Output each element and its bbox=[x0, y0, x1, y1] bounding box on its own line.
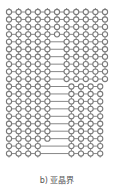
atom-icon bbox=[26, 24, 31, 29]
atom-icon bbox=[54, 17, 59, 22]
atom-icon bbox=[93, 69, 98, 74]
atom-icon bbox=[78, 114, 83, 119]
atom-icon bbox=[78, 84, 83, 89]
atom-icon bbox=[6, 106, 11, 111]
atom-icon bbox=[98, 91, 103, 96]
atom-icon bbox=[16, 114, 21, 119]
atom-icon bbox=[69, 91, 74, 96]
atom-icon bbox=[69, 151, 74, 156]
atom-icon bbox=[35, 76, 40, 81]
atom-icon bbox=[16, 69, 21, 74]
atom-icon bbox=[35, 62, 40, 67]
atom-icon bbox=[16, 54, 21, 59]
atom-icon bbox=[26, 17, 31, 22]
atom-icon bbox=[93, 54, 98, 59]
atom-icon bbox=[78, 106, 83, 111]
atom-icon bbox=[98, 106, 103, 111]
atom-icon bbox=[6, 151, 11, 156]
atom-icon bbox=[35, 151, 40, 156]
atom-icon bbox=[45, 106, 50, 111]
atom-icon bbox=[102, 9, 107, 14]
atom-icon bbox=[83, 17, 88, 22]
atom-icon bbox=[98, 121, 103, 126]
atom-icon bbox=[74, 54, 79, 59]
atom-icon bbox=[93, 9, 98, 14]
atom-icon bbox=[102, 76, 107, 81]
atom-icon bbox=[6, 32, 11, 37]
atom-icon bbox=[6, 99, 11, 104]
atom-icon bbox=[64, 54, 69, 59]
atom-icon bbox=[64, 39, 69, 44]
atom-icon bbox=[26, 129, 31, 134]
atom-icon bbox=[83, 62, 88, 67]
atom-icon bbox=[45, 62, 50, 67]
atom-icon bbox=[16, 121, 21, 126]
atom-icon bbox=[74, 9, 79, 14]
atom-icon bbox=[69, 129, 74, 134]
atom-icon bbox=[45, 99, 50, 104]
atom-icon bbox=[45, 24, 50, 29]
atom-icon bbox=[26, 32, 31, 37]
atom-icon bbox=[45, 39, 50, 44]
atom-icon bbox=[78, 99, 83, 104]
atom-icon bbox=[83, 32, 88, 37]
atom-icon bbox=[16, 106, 21, 111]
atom-icon bbox=[54, 24, 59, 29]
atom-icon bbox=[35, 99, 40, 104]
atom-icon bbox=[16, 39, 21, 44]
atom-icon bbox=[45, 17, 50, 22]
atom-icon bbox=[69, 84, 74, 89]
atom-icon bbox=[35, 121, 40, 126]
atom-icon bbox=[45, 136, 50, 141]
atom-icon bbox=[16, 91, 21, 96]
atom-icon bbox=[6, 136, 11, 141]
atom-icon bbox=[69, 114, 74, 119]
atom-icon bbox=[26, 151, 31, 156]
atom-icon bbox=[16, 17, 21, 22]
atom-icon bbox=[74, 32, 79, 37]
atom-icon bbox=[54, 32, 59, 37]
atom-icon bbox=[26, 76, 31, 81]
atom-icon bbox=[69, 99, 74, 104]
atom-icon bbox=[102, 39, 107, 44]
atom-icon bbox=[16, 47, 21, 52]
atom-icon bbox=[74, 76, 79, 81]
atom-icon bbox=[74, 24, 79, 29]
atom-icon bbox=[64, 62, 69, 67]
atom-icon bbox=[6, 9, 11, 14]
atom-icon bbox=[88, 121, 93, 126]
atom-icon bbox=[35, 144, 40, 149]
atom-icon bbox=[74, 39, 79, 44]
atom-icon bbox=[26, 54, 31, 59]
atom-icon bbox=[16, 24, 21, 29]
atom-icon bbox=[26, 106, 31, 111]
atom-icon bbox=[26, 47, 31, 52]
atom-icon bbox=[6, 17, 11, 22]
atom-icon bbox=[35, 39, 40, 44]
atom-icon bbox=[98, 136, 103, 141]
atom-icon bbox=[16, 9, 21, 14]
atom-icon bbox=[93, 47, 98, 52]
atom-icon bbox=[45, 54, 50, 59]
atom-icon bbox=[78, 151, 83, 156]
atom-icon bbox=[93, 24, 98, 29]
atom-icon bbox=[16, 144, 21, 149]
atom-icon bbox=[26, 9, 31, 14]
atom-icon bbox=[83, 24, 88, 29]
atom-icon bbox=[64, 47, 69, 52]
atom-icon bbox=[64, 69, 69, 74]
atom-icon bbox=[98, 151, 103, 156]
atom-icon bbox=[88, 136, 93, 141]
atom-icon bbox=[26, 69, 31, 74]
atom-icon bbox=[88, 151, 93, 156]
atom-icon bbox=[45, 69, 50, 74]
atom-icon bbox=[78, 144, 83, 149]
atom-icon bbox=[74, 62, 79, 67]
atom-icon bbox=[102, 69, 107, 74]
atom-icon bbox=[102, 47, 107, 52]
atom-icon bbox=[26, 99, 31, 104]
atom-icon bbox=[16, 62, 21, 67]
atom-icon bbox=[83, 39, 88, 44]
atom-icon bbox=[64, 32, 69, 37]
bond-lines bbox=[9, 8, 105, 158]
